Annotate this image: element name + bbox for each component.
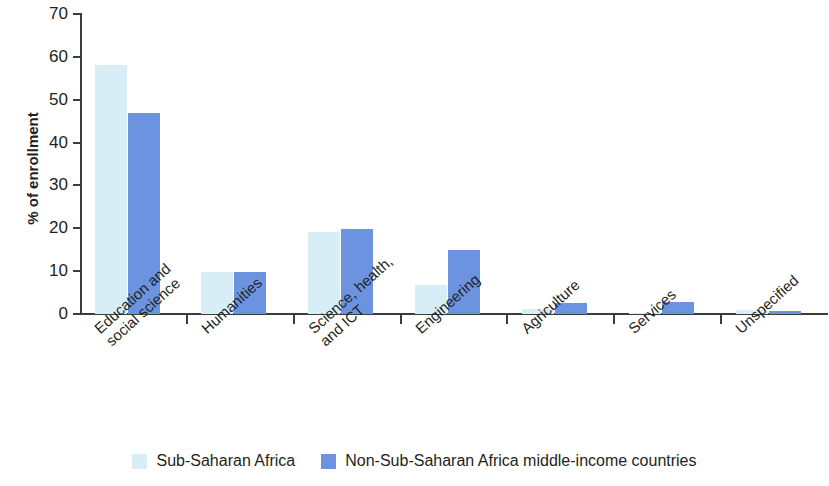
x-axis-category-labels: Education andsocial scienceHumanitiesSci… <box>0 318 829 436</box>
legend-item: Non-Sub-Saharan Africa middle-income cou… <box>321 452 696 470</box>
y-axis-title: % of enrollment <box>24 49 41 289</box>
legend-label: Sub-Saharan Africa <box>156 452 295 470</box>
bar-sub-saharan-africa <box>95 65 127 314</box>
bar-non-sub-saharan-africa <box>769 311 801 314</box>
chart-legend: Sub-Saharan AfricaNon-Sub-Saharan Africa… <box>0 452 829 470</box>
y-axis-tick-label: 50 <box>22 91 68 108</box>
bars-layer <box>80 14 828 314</box>
y-axis-tick-label: 40 <box>22 134 68 151</box>
legend-item: Sub-Saharan Africa <box>132 452 295 470</box>
y-axis-tick-label: 70 <box>22 5 68 22</box>
y-axis-tick-label: 10 <box>22 262 68 279</box>
legend-swatch-dark <box>321 454 336 469</box>
legend-label: Non-Sub-Saharan Africa middle-income cou… <box>345 452 696 470</box>
y-axis-tick-label: 20 <box>22 219 68 236</box>
enrollment-by-field-bar-chart: % of enrollment 706050403020100 Educatio… <box>0 0 829 486</box>
y-axis-tick-label: 30 <box>22 176 68 193</box>
y-axis-tick-label: 60 <box>22 48 68 65</box>
legend-swatch-light <box>132 454 147 469</box>
